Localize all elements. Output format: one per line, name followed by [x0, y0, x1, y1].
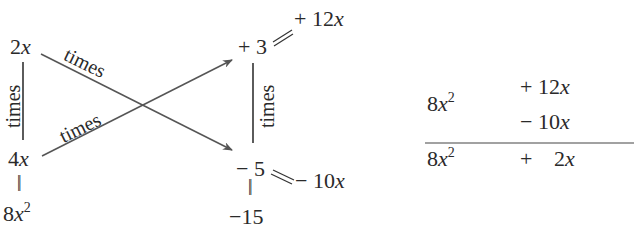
var: x: [14, 201, 24, 226]
value: 2: [554, 146, 565, 171]
value: − 10: [520, 109, 560, 134]
coef: 2: [10, 34, 21, 59]
sum-result-right: 2x: [554, 148, 575, 170]
value: − 10: [295, 168, 335, 193]
var: x: [565, 146, 575, 171]
sum-row1-left: 8x2: [427, 93, 455, 115]
var: x: [21, 34, 31, 59]
term-plus12x: + 12x: [294, 8, 344, 30]
value: + 12: [520, 74, 560, 99]
var: x: [560, 109, 570, 134]
sum-row2-right: − 10x: [520, 111, 570, 133]
term-minus10x: − 10x: [295, 170, 345, 192]
var: x: [560, 74, 570, 99]
term-minus15: −15: [229, 206, 263, 228]
var: x: [335, 168, 345, 193]
term-plus3: + 3: [238, 36, 267, 58]
exponent: 2: [24, 200, 31, 215]
sum-row1-right: + 12x: [520, 76, 570, 98]
coef: 8: [3, 201, 14, 226]
term-minus5: − 5: [236, 158, 265, 180]
exponent: 2: [448, 145, 455, 160]
value: + 12: [294, 6, 334, 31]
label-times-left: times: [3, 85, 23, 128]
term-8x2: 8x2: [3, 203, 31, 225]
var: x: [438, 91, 448, 116]
term-4x: 4x: [8, 148, 29, 170]
term-2x: 2x: [10, 36, 31, 58]
left-equals-sign: ||: [17, 174, 19, 190]
sum-result-left: 8x2: [427, 148, 455, 170]
coef: 8: [427, 146, 438, 171]
var: x: [334, 6, 344, 31]
var: x: [438, 146, 448, 171]
right-equals-sign: ||: [248, 178, 250, 194]
exponent: 2: [448, 90, 455, 105]
var: x: [19, 146, 29, 171]
coef: 8: [427, 91, 438, 116]
sum-result-op: +: [520, 148, 532, 170]
label-times-right: times: [257, 85, 277, 128]
coef: 4: [8, 146, 19, 171]
